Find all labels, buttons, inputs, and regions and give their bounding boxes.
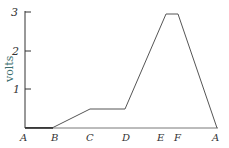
y-tick-label-1: 1: [13, 83, 20, 96]
x-label-B: B: [50, 132, 58, 143]
x-label-C: C: [86, 132, 94, 143]
y-axis-label: volts: [3, 55, 16, 83]
x-label-F: F: [173, 132, 182, 143]
y-tick-label-3: 3: [11, 6, 18, 19]
x-label-A-end: A: [211, 132, 219, 143]
voltage-line: [25, 14, 217, 128]
x-label-E: E: [156, 132, 165, 143]
voltage-line-chart: 3 2 1 volts A B C D E F A: [0, 0, 229, 148]
x-label-D: D: [121, 132, 130, 143]
x-label-A-start: A: [19, 132, 27, 143]
